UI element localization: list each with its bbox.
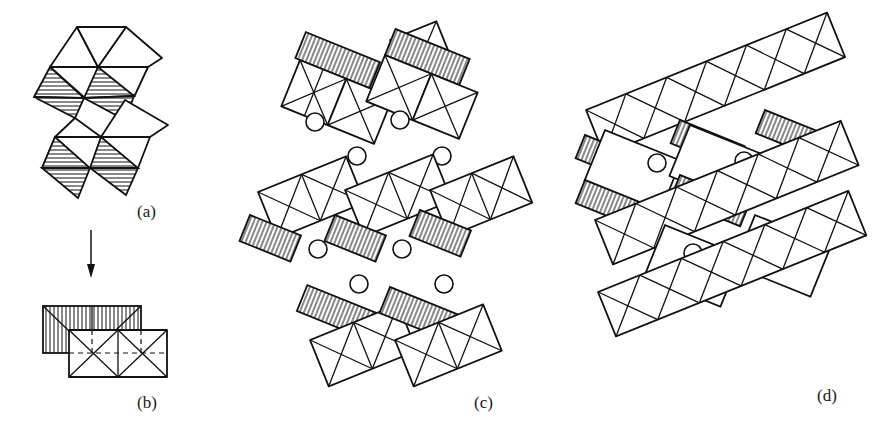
down-arrow-icon (87, 230, 95, 278)
panel-c-label: (c) (474, 393, 493, 413)
panel-a-octahedra (34, 27, 168, 198)
panel-d-framework (576, 13, 867, 337)
panel-c-layers (240, 21, 533, 386)
panel-b-projection (43, 306, 167, 377)
structure-diagram (0, 0, 888, 436)
panel-b-label: (b) (137, 393, 157, 413)
panel-d-label: (d) (817, 386, 837, 406)
panel-a-label: (a) (137, 202, 156, 222)
